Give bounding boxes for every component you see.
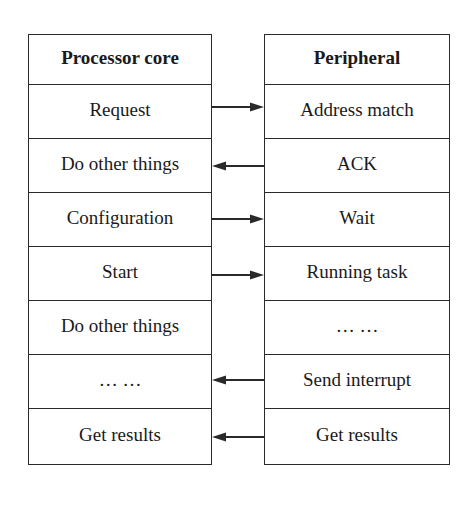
- arrow-left-icon: [212, 374, 264, 386]
- peripheral-row-ellipsis: … …: [265, 301, 449, 355]
- peripheral-row-running-task: Running task: [265, 247, 449, 301]
- processor-row-get-results: Get results: [29, 409, 211, 464]
- processor-core-header: Processor core: [29, 35, 211, 85]
- peripheral-row-label: … …: [336, 315, 379, 337]
- processor-row-label: Request: [89, 99, 150, 121]
- peripheral-row-label: ACK: [337, 153, 377, 175]
- processor-row-label: Get results: [79, 424, 161, 446]
- arrow-right-icon: [212, 269, 264, 281]
- peripheral-title: Peripheral: [314, 47, 401, 69]
- processor-row-do-other-things-2: Do other things: [29, 301, 211, 355]
- processor-row-label: … …: [99, 369, 142, 391]
- processor-row-do-other-things: Do other things: [29, 139, 211, 193]
- processor-row-label: Do other things: [61, 315, 179, 337]
- peripheral-row-get-results: Get results: [265, 409, 449, 464]
- peripheral-row-label: Running task: [307, 261, 408, 283]
- arrow-left-icon: [212, 431, 264, 443]
- peripheral-row-ack: ACK: [265, 139, 449, 193]
- processor-core-title: Processor core: [61, 47, 179, 69]
- peripheral-row-wait: Wait: [265, 193, 449, 247]
- processor-row-request: Request: [29, 85, 211, 139]
- processor-row-configuration: Configuration: [29, 193, 211, 247]
- processor-row-label: Configuration: [67, 207, 174, 229]
- processor-row-label: Start: [102, 261, 138, 283]
- peripheral-row-send-interrupt: Send interrupt: [265, 355, 449, 409]
- peripheral-column: Peripheral Address match ACK Wait Runnin…: [264, 34, 450, 465]
- processor-row-label: Do other things: [61, 153, 179, 175]
- peripheral-row-label: Get results: [316, 424, 398, 446]
- arrow-left-icon: [212, 160, 264, 172]
- peripheral-row-label: Address match: [300, 99, 413, 121]
- peripheral-row-address-match: Address match: [265, 85, 449, 139]
- processor-row-start: Start: [29, 247, 211, 301]
- peripheral-row-label: Send interrupt: [303, 369, 411, 391]
- peripheral-row-label: Wait: [339, 207, 374, 229]
- arrow-right-icon: [212, 101, 264, 113]
- processor-core-column: Processor core Request Do other things C…: [28, 34, 212, 465]
- arrow-right-icon: [212, 213, 264, 225]
- peripheral-header: Peripheral: [265, 35, 449, 85]
- processor-row-ellipsis: … …: [29, 355, 211, 409]
